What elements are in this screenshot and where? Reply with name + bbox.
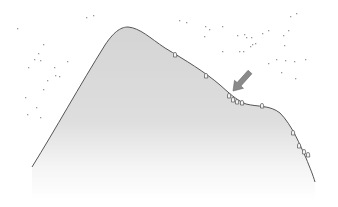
snow-speckle <box>262 33 263 34</box>
snow-speckle <box>281 72 282 73</box>
snow-speckle <box>36 107 37 108</box>
snow-speckle <box>243 51 244 52</box>
snow-speckle <box>295 78 296 79</box>
snow-speckle <box>283 35 284 36</box>
snow-speckle <box>285 60 286 61</box>
snow-speckle <box>34 59 35 60</box>
snow-speckle <box>54 67 55 68</box>
arrow-shape <box>233 70 252 91</box>
snow-speckle <box>288 30 289 31</box>
snow-speckle <box>268 63 269 64</box>
snow-speckle <box>244 34 245 35</box>
snow-speckle <box>86 17 87 18</box>
snow-speckle <box>186 22 187 23</box>
snow-speckle <box>255 43 256 44</box>
snow-speckle <box>222 51 223 52</box>
snow-speckle <box>239 51 240 52</box>
snow-speckle <box>252 44 253 45</box>
snow-speckle <box>67 61 68 62</box>
snow-speckle <box>284 45 285 46</box>
snow-speckle <box>59 76 60 77</box>
snow-speckle <box>209 29 210 30</box>
snow-speckle <box>251 37 252 38</box>
snow-speckle <box>43 44 44 45</box>
snow-speckle <box>305 59 306 60</box>
snow-speckle <box>28 67 29 68</box>
snow-speckle <box>17 28 18 29</box>
climber-icon <box>205 74 208 79</box>
climber-icon <box>298 144 301 149</box>
snow-speckle <box>204 36 205 37</box>
snow-speckle <box>268 30 269 31</box>
snow-speckle <box>43 89 44 90</box>
snow-speckle <box>25 97 26 98</box>
snow-speckle <box>222 26 223 27</box>
snow-speckle <box>246 37 247 38</box>
snow-speckle <box>40 60 41 61</box>
snow-speckle <box>205 26 206 27</box>
snow-speckle <box>40 117 41 118</box>
climber-icon <box>232 98 235 103</box>
climber-icon <box>292 131 295 136</box>
climber-icon <box>303 150 306 155</box>
snow-speckle <box>290 16 291 17</box>
climber-icon <box>228 94 231 99</box>
snow-speckle <box>47 80 48 81</box>
snow-speckle <box>294 61 295 62</box>
mountain-illustration <box>0 0 338 207</box>
snow-speckle <box>93 15 94 16</box>
arrow-icon <box>233 70 252 91</box>
snow-speckle <box>55 75 56 76</box>
climber-icon <box>241 101 244 106</box>
snow-speckle <box>276 59 277 60</box>
climber-icon <box>174 53 177 58</box>
snow-speckle <box>296 13 297 14</box>
snow-speckle <box>250 46 251 47</box>
climber-icon <box>236 100 239 105</box>
snow-speckle <box>38 53 39 54</box>
climber-icon <box>261 104 264 109</box>
snow-speckle <box>179 20 180 21</box>
climber-icon <box>307 153 310 158</box>
snow-speckle <box>237 35 238 36</box>
snow-speckle <box>27 114 28 115</box>
